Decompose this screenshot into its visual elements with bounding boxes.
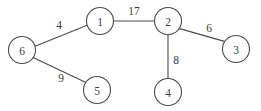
- node-3-label: 3: [233, 44, 239, 56]
- graph-diagram: 1 2 3 4 5 6 4 17 6 8 9: [0, 0, 261, 111]
- edge-weight-1-2: 17: [128, 5, 140, 17]
- node-6-label: 6: [19, 45, 25, 57]
- edge-weight-2-4: 8: [173, 54, 179, 66]
- graph-canvas: 1 2 3 4 5 6 4 17 6 8 9: [0, 0, 261, 111]
- edge-weight-group: 4 17 6 8 9: [56, 5, 212, 84]
- node-4-label: 4: [165, 87, 171, 99]
- edge-weight-6-1: 4: [56, 19, 62, 31]
- node-group: 1 2 3 4 5 6: [9, 8, 250, 106]
- edge-weight-6-5: 9: [58, 72, 64, 84]
- edge-weight-2-3: 6: [206, 22, 212, 34]
- edge-2-3: [180, 29, 225, 42]
- node-1-label: 1: [97, 16, 103, 28]
- node-5-label: 5: [94, 85, 100, 97]
- node-2-label: 2: [165, 16, 171, 28]
